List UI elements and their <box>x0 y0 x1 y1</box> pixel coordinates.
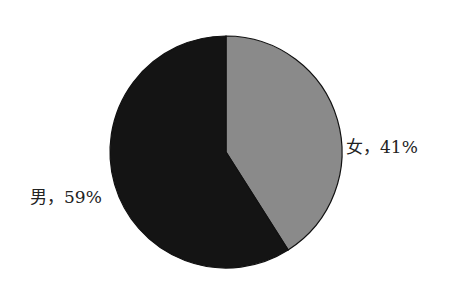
pie-slices <box>110 36 342 268</box>
slice-label-male: 男，59% <box>30 183 102 208</box>
slice-label-female: 女，41% <box>346 133 418 158</box>
